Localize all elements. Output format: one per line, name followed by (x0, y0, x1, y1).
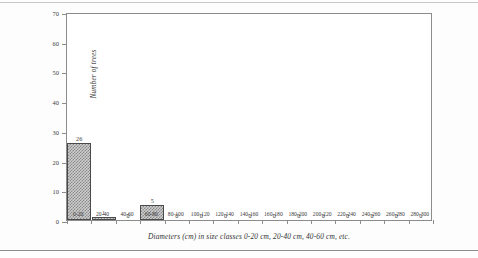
y-tick-mark (62, 103, 67, 104)
y-tick-mark (62, 133, 67, 134)
plot-area: Number of trees 010203040506070 26105000… (66, 13, 432, 221)
x-tick-mark (262, 220, 263, 224)
bottom-divider (0, 250, 478, 251)
x-tick-mark (335, 220, 336, 224)
y-tick-label: 40 (43, 100, 59, 106)
y-axis-title: Number of trees (90, 26, 98, 122)
top-divider (0, 2, 478, 3)
histogram-figure: Number of trees 010203040506070 26105000… (0, 0, 478, 258)
y-tick-mark (62, 44, 67, 45)
x-tick-mark (116, 220, 117, 224)
x-tick-mark (140, 220, 141, 224)
x-tick-mark (311, 220, 312, 224)
x-tick-mark (91, 220, 92, 224)
y-tick-mark (62, 73, 67, 74)
bar (67, 143, 91, 220)
bar-value-label: 26 (59, 136, 99, 142)
x-tick-mark (433, 220, 434, 224)
x-tick-label: 280-300 (400, 212, 440, 218)
y-tick-label: 30 (43, 130, 59, 136)
x-tick-mark (287, 220, 288, 224)
x-tick-mark (238, 220, 239, 224)
y-tick-mark (62, 14, 67, 15)
y-tick-label: 10 (43, 189, 59, 195)
y-tick-label: 70 (43, 11, 59, 17)
x-tick-mark (384, 220, 385, 224)
y-tick-label: 20 (43, 160, 59, 166)
y-tick-label: 60 (43, 41, 59, 47)
x-tick-mark (165, 220, 166, 224)
x-tick-mark (409, 220, 410, 224)
x-tick-mark (189, 220, 190, 224)
y-tick-label: 50 (43, 70, 59, 76)
x-axis-title: Diameters (cm) in size classes 0-20 cm, … (66, 232, 432, 241)
x-tick-mark (213, 220, 214, 224)
y-tick-label: 0 (43, 219, 59, 225)
x-tick-mark (67, 220, 68, 224)
x-tick-mark (360, 220, 361, 224)
bar-value-label: 5 (132, 198, 172, 204)
